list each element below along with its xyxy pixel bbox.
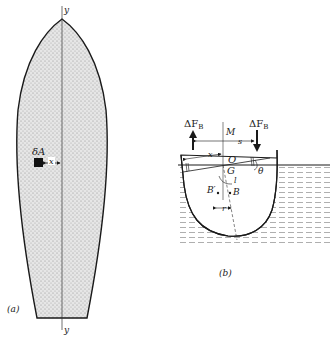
- b-prime-label: B′: [206, 185, 216, 195]
- force-left-label: ΔFB: [184, 118, 203, 131]
- l-label: l: [234, 176, 237, 185]
- axis-label-top: y: [63, 5, 70, 15]
- figure-b: ΔFB ΔFB M s x O G θ B′ B l r (b): [178, 118, 330, 278]
- buoyancy-new-point: [217, 192, 219, 194]
- buoyancy-point: [229, 192, 231, 194]
- metacenter-label: M: [225, 127, 236, 137]
- axis-label-bottom: y: [63, 325, 70, 335]
- figure-b-caption: (b): [219, 268, 232, 278]
- b-label: B: [232, 187, 240, 197]
- x-label: x: [49, 157, 54, 166]
- origin-label: O: [228, 154, 236, 165]
- figure-a: y y δA x (a): [7, 5, 107, 335]
- figure-a-caption: (a): [7, 304, 20, 314]
- s-label: s: [238, 137, 242, 146]
- force-right-label: ΔFB: [249, 118, 268, 131]
- diagram-canvas: y y δA x (a): [0, 0, 330, 340]
- element-label-deltaA: δA: [32, 146, 45, 157]
- theta-label: θ: [258, 166, 264, 176]
- area-element-square: [34, 158, 43, 167]
- x-label-b: x: [208, 150, 213, 159]
- g-label: G: [227, 165, 235, 176]
